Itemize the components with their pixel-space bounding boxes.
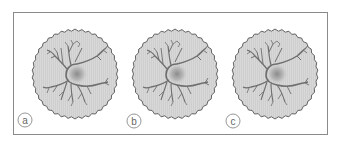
panel-b: b (127, 29, 218, 128)
panel-label-a: a (18, 113, 32, 127)
svg-text:b: b (131, 116, 137, 127)
panel-a: a (18, 29, 118, 127)
panel-label-b: b (127, 114, 141, 128)
panel-c: c (226, 29, 318, 128)
svg-text:c: c (231, 116, 236, 127)
panel-label-c: c (226, 114, 240, 128)
figure-canvas: a b c (0, 0, 337, 143)
svg-text:a: a (22, 115, 28, 126)
